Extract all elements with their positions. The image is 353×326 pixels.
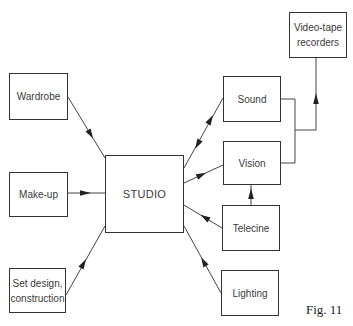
arrowhead-vtr [313,93,319,104]
edge-studio-sound [184,98,223,168]
arrowhead-lighting [199,256,209,268]
node-telecine: Telecine [222,205,280,251]
node-vtr-line1: Video-tape [294,20,342,35]
edge-wardrobe-studio [68,97,105,158]
figure-caption: Fig. 11 [306,302,342,318]
node-telecine-label: Telecine [233,221,270,236]
arrowhead-sound-down [193,139,203,151]
node-studio: STUDIO [105,155,184,233]
node-lighting-label: Lighting [232,286,267,301]
node-makeup-label: Make-up [19,187,58,202]
arrowhead-vision [196,170,208,180]
arrowhead-sound-up [205,114,215,126]
node-vision-label: Vision [238,156,265,171]
arrowhead-makeup [80,190,91,196]
node-lighting: Lighting [221,270,279,316]
edge-sound-vision-bracket [281,99,295,163]
arrowhead-setdesign [78,258,88,270]
arrowhead-wardrobe [85,128,95,140]
node-vision: Vision [223,141,281,185]
node-wardrobe: Wardrobe [9,73,68,120]
node-video-tape-recorders: Video-tape recorders [289,12,347,58]
node-set-design-line1: Set design, [12,276,62,291]
node-wardrobe-label: Wardrobe [17,89,61,104]
arrowhead-telecine [199,212,211,222]
edge-bracket-vtr [295,58,316,130]
node-vtr-line2: recorders [297,35,339,50]
node-set-design-line2: construction [11,291,65,306]
node-makeup: Make-up [9,172,68,217]
node-sound-label: Sound [238,92,267,107]
node-sound: Sound [223,76,281,122]
node-set-design: Set design, construction [9,268,66,313]
arrowhead-telecine-vision [248,188,254,199]
node-studio-label: STUDIO [123,187,166,202]
